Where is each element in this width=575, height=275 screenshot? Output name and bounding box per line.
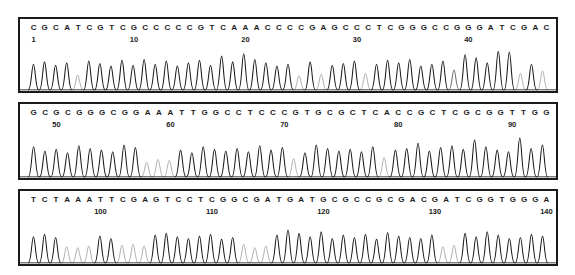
trace-peak [460,233,470,262]
trace-peak [250,59,260,89]
trace-peak [128,244,138,263]
trace-peak [294,233,304,262]
trace-peak [283,230,293,263]
base-call: A [164,107,176,119]
base-call: C [369,107,381,119]
trace-peak [28,64,38,89]
trace-peak [161,233,171,262]
position-tick-label: 130 [422,206,448,217]
trace-peak [40,151,50,177]
trace-peak [96,150,106,177]
trace-peak [481,147,491,177]
trace-peak [141,162,151,177]
trace-peak [537,71,547,90]
trace-peak [356,152,366,177]
trace-peak [119,145,129,177]
trace-peak [537,236,547,263]
base-call: T [506,107,518,119]
base-call: T [187,107,199,119]
base-call: G [483,107,495,119]
trace-peak [515,73,525,89]
trace-peak [28,147,38,177]
chromatogram-figure: CGCATCGTCGCCCCCGTCAAACCCCGAGCCCTCGGGCCGG… [0,0,575,275]
trace-peak [106,66,116,90]
trace-peak [272,66,282,90]
chromatogram-panel-1: CGCATCGTCGCCCCCGTCAAACCCCGAGCCCTCGGGCCGG… [18,17,558,93]
trace-peak [305,62,315,90]
trace-peak [515,138,525,177]
trace-peak [402,148,412,176]
trace-peak [85,148,95,176]
trace-peak [239,54,249,90]
base-call: C [39,107,51,119]
trace-peak [228,62,238,90]
trace-peak [266,150,276,177]
trace-peak [150,64,160,89]
trace-peak [164,160,174,176]
trace-peak [515,238,525,263]
trace-peak [150,235,160,263]
trace-peak [183,63,193,90]
trace-peak [209,149,219,177]
trace-peak [117,60,127,90]
chromatogram-panel-2: GCGCGGGCGGAAATTGGCCTCCCGTGCGCTCACCGCTCGC… [18,102,558,180]
base-call: G [199,107,211,119]
trace-peak [255,146,265,177]
panel-inner: CGCATCGTCGCCCCCGTCAAACCCCGAGCCCTCGGGCCGG… [20,19,556,91]
position-tick-label: 110 [199,206,225,217]
trace-peak [139,59,149,89]
base-call: A [540,194,552,206]
trace-peak [424,151,434,177]
trace-peak [469,140,479,177]
trace-peak [294,76,304,90]
base-call: G [540,107,552,119]
trace-peak [28,237,38,263]
trace-peak [460,54,470,89]
base-call: A [381,107,393,119]
trace-peak [338,235,348,263]
position-tick-label: 80 [385,119,411,130]
trace-peak [371,64,381,89]
trace-peak [349,238,359,263]
trace-peak [394,63,404,90]
chromatogram-panel-3: TCTAAATTCGAGTCCTCGGCGATGATGCGCCGCGACGATC… [18,189,558,266]
trace-peak [95,236,105,263]
trace-peak [194,236,204,263]
base-call: C [107,107,119,119]
base-call: C [540,22,552,34]
trace-peak [526,148,536,176]
base-call: G [85,107,97,119]
trace-peak [383,60,393,90]
trace-peak [39,234,49,263]
trace-peak [183,238,193,262]
trace-peak [504,238,514,262]
trace-peak [194,60,204,90]
panel-inner: TCTAAATTCGAGTCCTCGGCGATGATGCGCCGCGACGATC… [20,191,556,264]
trace-svg [20,218,556,264]
base-call: C [347,107,359,119]
base-call: C [449,107,461,119]
trace-peak [311,145,321,177]
trace-peak [205,234,215,263]
trace-peak [288,159,298,177]
trace-peak [438,61,448,90]
trace-peak [272,235,282,263]
trace-peak [493,235,503,263]
trace-peak [261,246,271,263]
trace-peak [405,238,415,263]
trace-peak [526,64,536,89]
trace-peak [394,236,404,263]
trace-peak [504,52,514,90]
trace-peak [427,235,437,263]
trace-peak [360,234,370,263]
base-call-row: GCGCGGGCGGAAATTGGCCTCCCGTGCGCTCACCGCTCGC… [20,107,556,119]
trace-peak [62,153,72,177]
position-tick-row: 5060708090 [20,119,556,130]
trace-peak [95,64,105,90]
base-call: C [221,107,233,119]
trace-peak [172,66,182,90]
trace-peak [62,247,72,263]
base-call: C [267,107,279,119]
trace-peak [187,153,197,177]
position-tick-label: 20 [232,34,258,45]
